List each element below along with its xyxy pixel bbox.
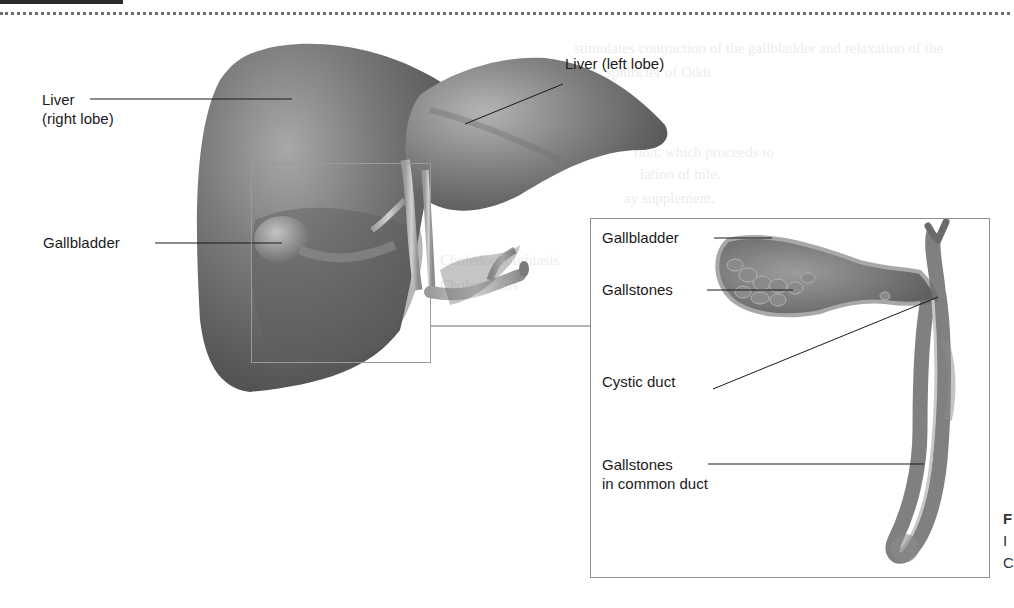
inset-label-cystic-duct: Cystic duct <box>602 372 675 391</box>
label-gallbladder: Gallbladder <box>43 233 120 252</box>
inset-label-gallbladder: Gallbladder <box>602 228 679 247</box>
figure-caption-fragment: F I C <box>1003 508 1014 574</box>
label-liver-right-lobe: Liver (right lobe) <box>42 90 114 128</box>
detail-region-outline <box>251 163 431 363</box>
liver-left-lobe <box>406 58 668 211</box>
inset-label-gallstones: Gallstones <box>602 280 673 299</box>
inset-panel <box>590 218 990 578</box>
label-liver-left-lobe: Liver (left lobe) <box>565 54 664 73</box>
inset-label-gallstones-common-duct: Gallstones in common duct <box>602 455 708 493</box>
